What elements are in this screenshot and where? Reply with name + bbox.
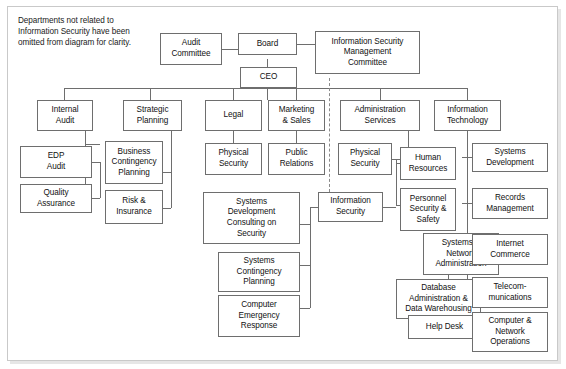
node-ism-committee-label: Information Security Management Committe… bbox=[330, 37, 406, 69]
node-strategic-planning[interactable]: Strategic Planning bbox=[123, 100, 182, 131]
line-is-in bbox=[310, 207, 318, 208]
line-sp-bcp bbox=[163, 172, 171, 173]
line-ia-down bbox=[85, 144, 100, 145]
node-help-desk[interactable]: Help Desk bbox=[408, 315, 481, 339]
node-administration-services-label: Administration Services bbox=[352, 105, 407, 126]
line-sp-spine bbox=[171, 131, 172, 208]
node-physical-security-admin[interactable]: Physical Security bbox=[338, 143, 392, 175]
node-personnel-security-safety[interactable]: Personnel Security & Safety bbox=[400, 188, 456, 231]
line-sp-risk bbox=[163, 208, 171, 209]
node-computer-network-operations[interactable]: Computer & Network Operations bbox=[472, 312, 548, 352]
node-physical-security-legal[interactable]: Physical Security bbox=[205, 143, 262, 175]
node-information-security[interactable]: Information Security bbox=[318, 192, 383, 222]
node-marketing-sales[interactable]: Marketing & Sales bbox=[268, 100, 325, 131]
node-internal-audit-label: Internal Audit bbox=[50, 105, 81, 126]
line-ia-qa bbox=[92, 198, 100, 199]
line-bus-infotech bbox=[467, 88, 468, 100]
node-computer-network-operations-label: Computer & Network Operations bbox=[486, 316, 533, 348]
line-bus-right bbox=[267, 88, 467, 89]
node-risk-insurance-label: Risk & Insurance bbox=[114, 196, 154, 217]
line-bus-administration bbox=[380, 88, 381, 100]
node-information-technology[interactable]: Information Technology bbox=[434, 100, 501, 131]
line-is-sdcs bbox=[300, 224, 310, 225]
node-legal-label: Legal bbox=[222, 110, 246, 121]
node-physical-security-legal-label: Physical Security bbox=[216, 148, 250, 169]
node-edp-audit-label: EDP Audit bbox=[45, 151, 67, 172]
node-telecommunications-label: Telecom- munications bbox=[486, 282, 533, 303]
omission-note: Departments not related to Information S… bbox=[18, 15, 178, 49]
line-bus-marketing bbox=[296, 88, 297, 100]
node-audit-committee-label: Audit Committee bbox=[169, 38, 212, 59]
node-internet-commerce[interactable]: Internet Commerce bbox=[472, 234, 548, 265]
node-personnel-security-safety-label: Personnel Security & Safety bbox=[408, 194, 449, 226]
node-human-resources-label: Human Resources bbox=[407, 153, 450, 174]
node-telecommunications[interactable]: Telecom- munications bbox=[472, 277, 548, 308]
node-information-technology-label: Information Technology bbox=[445, 105, 490, 126]
node-database-administration-label: Database Administration & Data Warehousi… bbox=[403, 283, 474, 315]
node-marketing-sales-label: Marketing & Sales bbox=[277, 105, 317, 126]
node-public-relations[interactable]: Public Relations bbox=[268, 143, 325, 175]
node-human-resources[interactable]: Human Resources bbox=[400, 147, 456, 180]
node-business-contingency-planning[interactable]: Business Contingency Planning bbox=[105, 141, 163, 184]
line-ismc-dashed bbox=[329, 78, 330, 192]
node-ism-committee[interactable]: Information Security Management Committe… bbox=[315, 31, 420, 74]
line-is-cer bbox=[300, 308, 310, 309]
line-audit-board bbox=[222, 49, 238, 50]
node-quality-assurance[interactable]: Quality Assurance bbox=[20, 184, 92, 213]
node-public-relations-label: Public Relations bbox=[278, 148, 316, 169]
line-admin-vert bbox=[396, 159, 397, 205]
line-legal-ps bbox=[233, 131, 234, 143]
line-it-sysdev bbox=[462, 157, 472, 158]
node-board[interactable]: Board bbox=[238, 33, 297, 55]
line-board-ismc bbox=[297, 44, 315, 45]
line-bus-internal-audit bbox=[64, 88, 65, 100]
line-it-records bbox=[462, 203, 472, 204]
line-marketing-pr bbox=[296, 131, 297, 143]
node-administration-services[interactable]: Administration Services bbox=[340, 100, 420, 131]
node-database-administration[interactable]: Database Administration & Data Warehousi… bbox=[396, 279, 481, 319]
line-ia-edp bbox=[92, 162, 100, 163]
node-systems-development-consulting-label: Systems Development Consulting on Securi… bbox=[225, 197, 278, 239]
node-computer-emergency-response-label: Computer Emergency Response bbox=[237, 300, 282, 332]
node-edp-audit[interactable]: EDP Audit bbox=[20, 146, 92, 178]
node-audit-committee[interactable]: Audit Committee bbox=[160, 33, 222, 65]
node-business-contingency-planning-label: Business Contingency Planning bbox=[110, 147, 159, 179]
node-systems-development[interactable]: Systems Development bbox=[472, 143, 548, 172]
node-risk-insurance[interactable]: Risk & Insurance bbox=[105, 190, 163, 224]
line-bus-strategic-planning bbox=[150, 88, 151, 100]
line-bus-legal bbox=[233, 88, 234, 100]
line-is-spine bbox=[310, 207, 311, 308]
node-records-management-label: Records Management bbox=[484, 193, 535, 214]
node-systems-development-consulting[interactable]: Systems Development Consulting on Securi… bbox=[203, 192, 300, 244]
org-chart-diagram: Departments not related to Information S… bbox=[0, 0, 566, 369]
line-is-pss bbox=[383, 207, 396, 208]
node-help-desk-label: Help Desk bbox=[424, 322, 465, 333]
node-systems-contingency-planning[interactable]: Systems Contingency Planning bbox=[218, 252, 300, 292]
node-ceo[interactable]: CEO bbox=[240, 67, 297, 88]
node-quality-assurance-label: Quality Assurance bbox=[35, 188, 77, 209]
node-systems-contingency-planning-label: Systems Contingency Planning bbox=[235, 256, 284, 288]
node-systems-development-label: Systems Development bbox=[484, 147, 536, 168]
node-legal[interactable]: Legal bbox=[205, 100, 262, 131]
node-ceo-label: CEO bbox=[258, 72, 280, 83]
line-ia-vert bbox=[100, 162, 101, 198]
line-bus-left bbox=[64, 88, 267, 89]
line-is-scp bbox=[300, 265, 310, 266]
node-internet-commerce-label: Internet Commerce bbox=[488, 239, 532, 260]
node-board-label: Board bbox=[255, 39, 281, 50]
node-physical-security-admin-label: Physical Security bbox=[348, 148, 382, 169]
line-ceo-bus bbox=[267, 88, 268, 100]
node-records-management[interactable]: Records Management bbox=[472, 188, 548, 219]
node-computer-emergency-response[interactable]: Computer Emergency Response bbox=[218, 295, 300, 337]
node-internal-audit[interactable]: Internal Audit bbox=[37, 100, 93, 131]
node-strategic-planning-label: Strategic Planning bbox=[135, 105, 171, 126]
node-information-security-label: Information Security bbox=[328, 196, 372, 217]
